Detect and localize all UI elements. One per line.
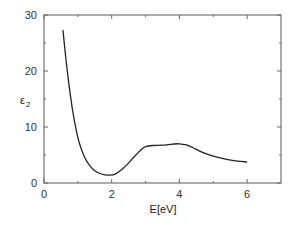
- data-line: [63, 30, 247, 175]
- x-tick-label: 2: [109, 188, 115, 200]
- plot-frame: [44, 15, 281, 183]
- x-tick-label: 4: [176, 188, 182, 200]
- y-axis-label-base: ε: [20, 94, 25, 106]
- x-tick-label: 6: [244, 188, 250, 200]
- axis-ticks: [44, 15, 281, 183]
- y-tick-label: 20: [25, 65, 37, 77]
- y-axis-label-subscript: 2: [26, 100, 31, 109]
- epsilon2-chart: 02460102030 E[eV] ε2: [0, 0, 292, 226]
- x-axis-label: E[eV]: [150, 203, 177, 215]
- y-tick-label: 0: [31, 177, 37, 189]
- plot-axes: [44, 15, 281, 183]
- x-tick-label: 0: [41, 188, 47, 200]
- y-tick-label: 30: [25, 9, 37, 21]
- y-tick-label: 10: [25, 121, 37, 133]
- y-axis-label: ε2: [20, 94, 31, 109]
- tick-labels: 02460102030: [25, 9, 250, 200]
